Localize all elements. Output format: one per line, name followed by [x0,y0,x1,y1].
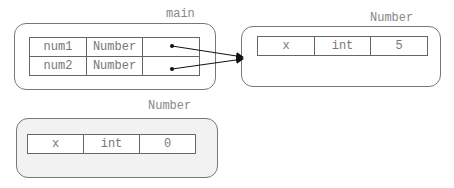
table-row: x int 0 [28,135,196,154]
field-type: int [315,37,371,56]
var-type: Number [87,57,143,76]
number-object-2-table: x int 0 [27,134,196,154]
number-object-2-label: Number [148,99,191,113]
number-object-1-label: Number [370,11,413,25]
var-type: Number [87,38,143,57]
number-object-1-table: x int 5 [257,36,428,56]
var-ref [143,38,200,57]
field-type: int [84,135,140,154]
field-name: x [258,37,315,56]
field-name: x [28,135,84,154]
var-ref [143,57,200,76]
main-vars-table: num1 Number num2 Number [29,37,200,76]
var-name: num1 [30,38,87,57]
table-row: x int 5 [258,37,428,56]
var-name: num2 [30,57,87,76]
main-frame-label: main [166,7,195,21]
table-row: num1 Number [30,38,200,57]
table-row: num2 Number [30,57,200,76]
field-value: 5 [371,37,428,56]
field-value: 0 [140,135,196,154]
